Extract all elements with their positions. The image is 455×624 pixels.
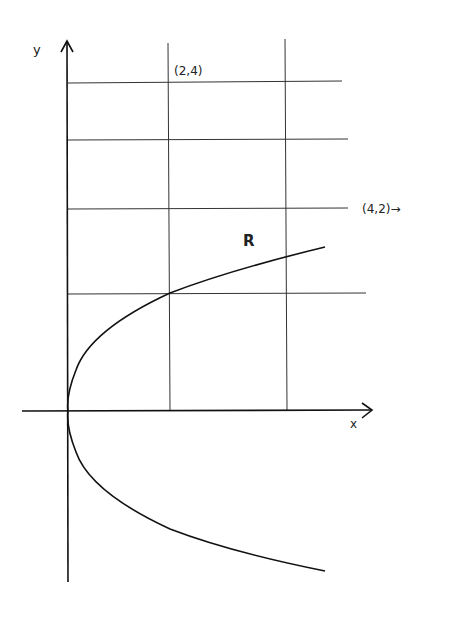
diagram-canvas: y x (2,4) (4,2)→ R xyxy=(0,0,455,624)
region-label: R xyxy=(243,232,255,250)
grid-line-h3 xyxy=(68,208,348,209)
x-axis xyxy=(22,410,371,411)
grid-line-h2 xyxy=(68,139,348,140)
point-label-4-2: (4,2)→ xyxy=(362,202,401,216)
grid-line-v2 xyxy=(285,39,287,411)
grid-line-h4 xyxy=(68,293,366,294)
grid-line-h1 xyxy=(68,81,342,83)
grid-lines xyxy=(68,39,366,411)
y-axis xyxy=(67,42,68,582)
axes xyxy=(22,41,372,582)
y-axis-label: y xyxy=(33,42,41,57)
grid-line-v1 xyxy=(168,43,170,411)
point-label-2-4: (2,4) xyxy=(174,64,202,78)
x-axis-label: x xyxy=(350,417,357,431)
